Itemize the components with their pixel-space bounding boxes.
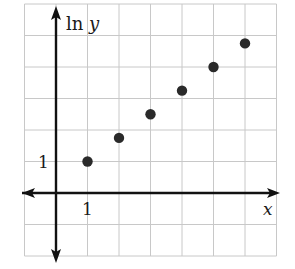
data-point [82, 156, 92, 166]
data-points [82, 38, 250, 167]
data-point [177, 85, 187, 95]
data-point [145, 109, 155, 119]
data-point [114, 133, 124, 143]
x-tick-label: 1 [82, 199, 93, 219]
y-axis-label: ln y [66, 13, 100, 34]
x-axis-label: x [263, 199, 273, 219]
y-tick-label: 1 [38, 152, 49, 172]
data-point [208, 62, 218, 72]
data-point [240, 38, 250, 48]
chart: ln y x 1 1 [0, 0, 295, 269]
grid [25, 4, 277, 256]
